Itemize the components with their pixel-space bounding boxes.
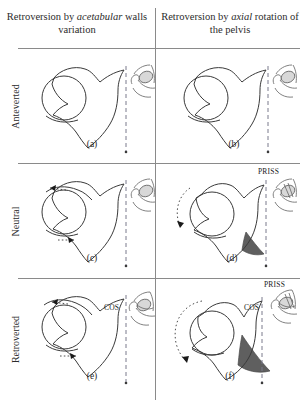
figure-root: Retroversion by acetabular walls variati…	[0, 0, 306, 408]
panel-caption-d: (d)	[212, 253, 252, 263]
shaded-posterior-wall-d	[242, 232, 264, 255]
row-label-retroverted: Retroverted	[10, 305, 21, 375]
axial-rotation-arrow-d	[177, 188, 190, 228]
figure-header: Retroversion by acetabular walls variati…	[0, 0, 306, 48]
label-priss-f: PRISS	[264, 280, 285, 289]
row-label-anteverted: Anteverted	[10, 72, 21, 142]
reference-line-endpoint-c	[125, 265, 128, 268]
reference-line-endpoint-f	[261, 382, 264, 385]
panel-caption-b: (b)	[214, 139, 254, 149]
rule-row1-row2	[18, 163, 300, 164]
posterior-wall-arrowhead-e	[70, 353, 76, 359]
row-label-neutral: Neutral	[10, 187, 21, 257]
reference-line-endpoint-e	[125, 382, 128, 385]
inset-radiograph-d	[273, 179, 297, 211]
panel-f: PRISS COS (f)	[172, 285, 297, 390]
panel-caption-c: (c)	[72, 253, 112, 263]
panel-a: (a)	[30, 56, 155, 156]
inset-radiograph-e	[129, 292, 155, 325]
inset-radiograph-f	[271, 290, 297, 323]
panel-caption-a: (a)	[72, 139, 112, 149]
anterior-wall-e	[44, 300, 92, 315]
femoral-head-circle-d	[190, 192, 234, 236]
panel-d: PRISS (d)	[172, 170, 297, 270]
rotation-arrowhead-d	[177, 221, 184, 228]
anterior-wall-arrowhead-c	[50, 185, 56, 191]
panel-b: (b)	[172, 56, 297, 156]
rotation-arrowhead-f	[182, 356, 189, 363]
hemipelvis-outline-a	[52, 68, 124, 148]
inset-radiograph-b	[273, 65, 297, 97]
femoral-head-circle-c	[42, 190, 86, 234]
panel-caption-f: (f)	[210, 371, 250, 381]
column-header-acetabular-pre: Retroversion by	[7, 11, 77, 22]
reference-line-endpoint-d	[265, 265, 268, 268]
label-cos-e: COS	[104, 303, 119, 312]
rule-column-divider	[155, 8, 156, 400]
femoral-head-circle-b	[184, 76, 228, 120]
rule-top	[18, 48, 300, 49]
femoral-head-circle-f	[190, 311, 234, 355]
acetabular-wall-arc-d	[194, 232, 226, 238]
femoral-head-circle-a	[42, 76, 86, 120]
column-header-acetabular: Retroversion by acetabular walls variati…	[3, 10, 151, 36]
reference-line-endpoint-b	[267, 151, 270, 154]
rotation-arc-shaft-d	[177, 188, 190, 226]
axial-rotation-arrow-f	[175, 301, 202, 363]
panel-e: COS (e)	[30, 285, 155, 390]
column-header-acetabular-emphasis: acetabular	[77, 11, 123, 22]
label-priss-d: PRISS	[258, 167, 279, 176]
column-header-axial-emphasis: axial	[231, 11, 252, 22]
reference-line-endpoint-a	[125, 151, 128, 154]
label-cos-f: COS	[244, 303, 259, 312]
column-header-axial: Retroversion by axial rotation of the pe…	[156, 10, 304, 36]
femoral-head-circle-e	[42, 305, 86, 349]
panel-c: (c)	[30, 170, 155, 270]
inset-radiograph-a	[131, 65, 155, 97]
panel-caption-e: (e)	[72, 371, 112, 381]
inset-radiograph-c	[131, 179, 155, 211]
hemipelvis-outline-c	[52, 182, 124, 262]
hemipelvis-outline-b	[194, 68, 266, 148]
column-header-axial-pre: Retroversion by	[161, 11, 231, 22]
rule-row2-row3	[18, 278, 300, 279]
